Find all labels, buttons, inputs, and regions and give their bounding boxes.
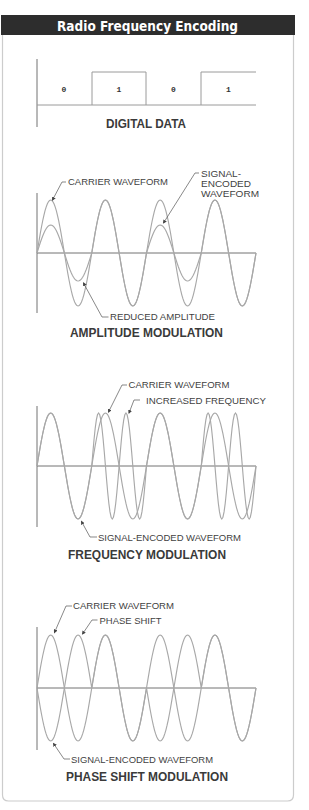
card-frame bbox=[3, 15, 294, 801]
page-title: Radio Frequency Encoding bbox=[57, 18, 238, 34]
title-bar: Radio Frequency Encoding bbox=[1, 15, 295, 35]
psk-carrier-label: CARRIER WAVEFORM bbox=[73, 600, 174, 611]
am-signal-label-line3: WAVEFORM bbox=[201, 188, 259, 199]
am-reduced-label: REDUCED AMPLITUDE bbox=[110, 311, 215, 322]
psk-signal-label: SIGNAL-ENCODED WAVEFORM bbox=[71, 754, 213, 765]
bit-value: 0 bbox=[62, 85, 67, 94]
am-caption: AMPLITUDE MODULATION bbox=[70, 326, 223, 340]
bit-value: 1 bbox=[117, 85, 122, 94]
am-carrier-label: CARRIER WAVEFORM bbox=[68, 176, 168, 187]
fm-carrier-label: CARRIER WAVEFORM bbox=[129, 379, 230, 390]
digital-data-caption: DIGITAL DATA bbox=[106, 117, 186, 131]
fm-caption: FREQUENCY MODULATION bbox=[68, 548, 226, 562]
rf-encoding-diagram: Radio Frequency Encoding 0 1 0 1 DIGITAL… bbox=[0, 0, 309, 810]
psk-caption: PHASE SHIFT MODULATION bbox=[66, 770, 228, 784]
fm-increased-label: INCREASED FREQUENCY bbox=[146, 395, 267, 406]
bit-value: 0 bbox=[171, 85, 176, 94]
psk-shift-label: PHASE SHIFT bbox=[100, 615, 162, 626]
bit-value: 1 bbox=[226, 85, 231, 94]
fm-signal-label: SIGNAL-ENCODED WAVEFORM bbox=[98, 532, 241, 543]
